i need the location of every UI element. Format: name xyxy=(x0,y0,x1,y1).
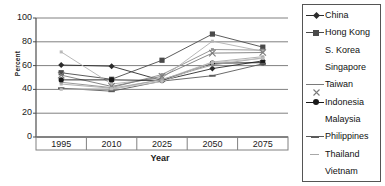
legend-marker-icon xyxy=(306,165,324,177)
x-tick-label: 2075 xyxy=(241,140,285,149)
data-marker xyxy=(261,57,264,60)
legend-item-s-korea[interactable]: S. Korea xyxy=(303,42,380,59)
y-tick-label: 20 xyxy=(8,108,32,117)
legend-item-china[interactable]: China xyxy=(303,7,380,24)
data-marker xyxy=(159,58,164,63)
legend-item-label: Hong Kong xyxy=(324,28,370,37)
data-marker xyxy=(211,61,214,64)
legend-item-label: Thailand xyxy=(324,150,360,159)
data-marker xyxy=(60,50,63,53)
y-axis-tick-labels: 020406080100 xyxy=(4,0,32,186)
legend-marker-icon xyxy=(306,148,324,160)
data-marker xyxy=(260,63,266,65)
legend-marker-icon xyxy=(306,62,324,74)
legend-item-label: Indonesia xyxy=(324,98,364,107)
legend-item-label: S. Korea xyxy=(324,46,360,55)
data-marker xyxy=(60,88,63,91)
y-tick-label: 80 xyxy=(8,37,32,46)
legend-item-label: Malaysia xyxy=(324,115,361,124)
data-marker xyxy=(109,77,114,82)
legend-item-label: Philippines xyxy=(324,132,369,141)
data-marker xyxy=(211,48,214,51)
plot-area-wrapper: Percent 020406080100 1995201020252050207… xyxy=(0,0,296,186)
x-tick-label: 2010 xyxy=(90,140,134,149)
legend-marker-icon xyxy=(306,27,324,39)
line-chart: Percent 020406080100 1995201020252050207… xyxy=(0,0,385,186)
legend-marker-icon xyxy=(306,113,324,125)
series-line xyxy=(61,34,263,79)
legend-item-vietnam[interactable]: Vietnam xyxy=(303,163,380,180)
data-marker xyxy=(110,87,113,90)
legend-item-label: China xyxy=(324,11,349,20)
y-tick-label: 100 xyxy=(8,13,32,22)
legend-item-label: Taiwan xyxy=(324,80,353,89)
legend-item-taiwan[interactable]: Taiwan xyxy=(303,76,380,93)
legend-item-philippines[interactable]: Philippines xyxy=(303,128,380,145)
legend-item-thailand[interactable]: Thailand xyxy=(303,145,380,162)
legend-marker-icon xyxy=(306,79,324,91)
legend-items: ChinaHong KongS. KoreaSingaporeTaiwanInd… xyxy=(303,7,380,180)
data-marker xyxy=(209,75,215,77)
data-marker xyxy=(210,31,215,36)
legend-marker-icon xyxy=(306,10,324,22)
x-tick-label: 1995 xyxy=(39,140,83,149)
y-tick-label: 40 xyxy=(8,84,32,93)
legend-item-hong-kong[interactable]: Hong Kong xyxy=(303,24,380,41)
x-axis-title: Year xyxy=(35,153,285,163)
data-marker xyxy=(108,90,114,92)
data-marker xyxy=(59,77,64,82)
legend-item-label: Singapore xyxy=(324,63,366,72)
y-tick-label: 0 xyxy=(8,132,32,141)
data-marker xyxy=(211,40,214,43)
legend-item-singapore[interactable]: Singapore xyxy=(303,59,380,76)
data-marker xyxy=(161,80,164,83)
x-tick-label: 2025 xyxy=(140,140,184,149)
legend-item-label: Vietnam xyxy=(324,167,358,176)
x-tick-label: 2050 xyxy=(190,140,234,149)
y-tick-label: 60 xyxy=(8,61,32,70)
legend-marker-icon xyxy=(306,131,324,143)
legend-item-indonesia[interactable]: Indonesia xyxy=(303,93,380,110)
data-marker xyxy=(109,63,115,69)
data-marker xyxy=(60,83,63,86)
legend-marker-icon xyxy=(306,44,324,56)
legend-item-malaysia[interactable]: Malaysia xyxy=(303,111,380,128)
legend-marker-icon xyxy=(306,96,324,108)
data-marker xyxy=(58,62,64,68)
legend: ChinaHong KongS. KoreaSingaporeTaiwanInd… xyxy=(302,4,381,182)
